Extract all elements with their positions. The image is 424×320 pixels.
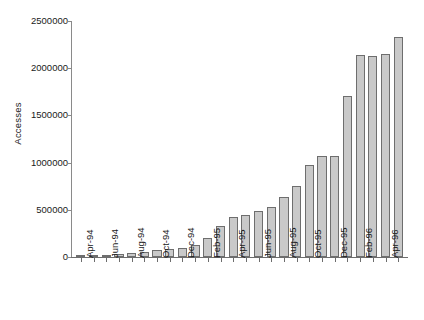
x-tick-label: Aug-95 [288, 227, 298, 258]
x-tick-label: Aug-94 [136, 227, 146, 258]
x-axis-tick-labels: Apr-94Jun-94Aug-94Oct-94Dec-94Feb-95Apr-… [71, 258, 408, 320]
bar-chart: Accesses 0500000100000015000002000000250… [0, 0, 424, 320]
y-tick-label: 500000 [6, 205, 68, 215]
x-tick-label: Feb-95 [212, 228, 222, 258]
plot-area [71, 21, 408, 257]
x-tick-label: Jun-94 [110, 229, 120, 258]
bar [356, 55, 365, 257]
x-tick-label: Feb-96 [364, 228, 374, 258]
y-axis-tick-labels: 05000001000000150000020000002500000 [0, 0, 68, 320]
x-tick-label: Oct-95 [313, 229, 323, 258]
x-tick-label: Apr-94 [85, 229, 95, 258]
x-tick-label: Apr-96 [390, 229, 400, 258]
bar [394, 37, 403, 257]
y-tick-label: 2500000 [6, 16, 68, 26]
y-tick-label: 0 [6, 252, 68, 262]
bar [381, 54, 390, 257]
y-tick-label: 2000000 [6, 63, 68, 73]
x-tick-label: Jun-95 [263, 229, 273, 258]
bar-series [71, 21, 408, 257]
x-tick-label: Dec-94 [186, 227, 196, 258]
y-tick-label: 1000000 [6, 158, 68, 168]
x-tick-label: Oct-94 [161, 229, 171, 258]
y-tick-label: 1500000 [6, 110, 68, 120]
x-tick-label: Dec-95 [339, 227, 349, 258]
x-tick-label: Apr-95 [237, 229, 247, 258]
